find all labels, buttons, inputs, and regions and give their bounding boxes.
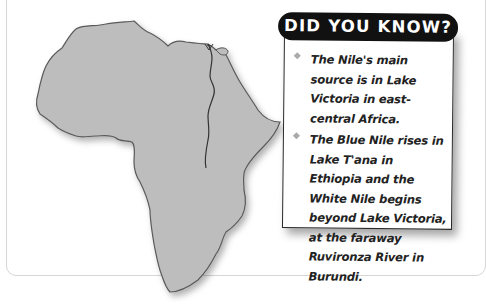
did-you-know-box: DID YOU KNOW? The Nile's main source is …: [282, 29, 454, 230]
did-you-know-title: DID YOU KNOW?: [278, 12, 458, 42]
fact-item: The Nile's main source is in Lake Victor…: [284, 48, 449, 128]
diamond-bullet-icon: [293, 132, 300, 139]
africa-landmass: [37, 21, 280, 292]
fact-text: The Blue Nile rises in Lake T'ana in Eth…: [308, 132, 446, 283]
fact-text: The Nile's main source is in Lake Victor…: [310, 52, 416, 125]
africa-map: [0, 0, 300, 307]
fact-item: The Blue Nile rises in Lake T'ana in Eth…: [282, 128, 448, 286]
fact-list: The Nile's main source is in Lake Victor…: [282, 30, 453, 286]
diamond-bullet-icon: [294, 52, 301, 59]
